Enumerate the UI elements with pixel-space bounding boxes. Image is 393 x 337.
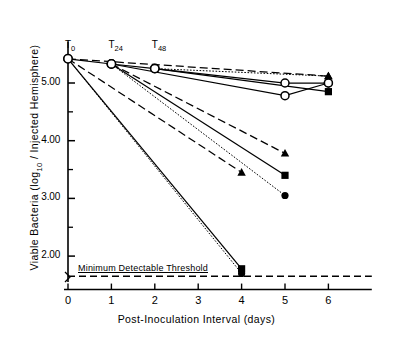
x-tick-label: 1 [101, 294, 121, 306]
x-tick-label: 0 [58, 294, 78, 306]
y-axis-title-subscript: 10 [35, 162, 44, 171]
y-tick-label: 5.00 [20, 76, 60, 87]
y-axis-title-tail: / Injected Hemisphere) [28, 45, 40, 163]
x-tick-label: 6 [318, 294, 338, 306]
annotation-t0: T0 [65, 39, 75, 53]
x-tick-label: 4 [232, 294, 252, 306]
series-line-T24-dashed-triangle [111, 64, 285, 153]
start-node-open-circle-0 [64, 55, 72, 63]
x-tick-label: 3 [188, 294, 208, 306]
marker-filled-triangle [237, 168, 245, 176]
plot-area [64, 41, 372, 289]
y-tick-label: 2.00 [20, 249, 60, 260]
annotation-t24: T24 [108, 39, 122, 53]
marker-filled-square [281, 172, 288, 179]
annotation-t48: T48 [152, 39, 166, 53]
marker-open-circle [281, 92, 289, 100]
marker-filled-circle [281, 192, 288, 199]
y-tick-label: 3.00 [20, 191, 60, 202]
chart-canvas [0, 0, 393, 337]
threshold-label: Minimum Detectable Threshold [78, 263, 208, 273]
series-line-T0-solid-declining-square [68, 59, 242, 269]
start-node-open-circle-2 [151, 64, 159, 72]
marker-filled-triangle [281, 149, 289, 157]
start-node-open-circle-1 [107, 60, 115, 68]
marker-filled-square [325, 88, 332, 95]
series-line-T24-dotted-circle [111, 64, 285, 196]
y-tick-label: 4.00 [20, 134, 60, 145]
marker-open-circle [281, 79, 289, 87]
figure-chart-viable-bacteria: Viable Bacteria (log10 / Injected Hemisp… [0, 0, 393, 337]
x-tick-label: 5 [275, 294, 295, 306]
x-axis-title: Post-Inoculation Interval (days) [0, 313, 393, 325]
series-line-T24-solid-open-circle [111, 64, 328, 96]
marker-open-circle [324, 79, 332, 87]
marker-filled-circle [238, 270, 245, 277]
x-tick-label: 2 [145, 294, 165, 306]
y-axis-title: Viable Bacteria (log10 / Injected Hemisp… [28, 38, 43, 278]
